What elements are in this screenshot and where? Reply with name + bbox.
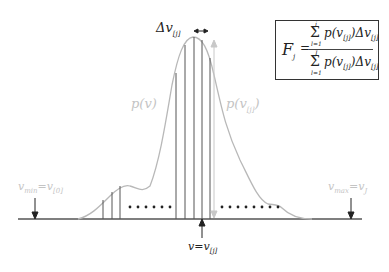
- delta-v-arrow-icon: [194, 29, 208, 33]
- formula-lhs-subscript: j: [293, 53, 295, 61]
- curve-label-pvj: p(v[j]): [226, 96, 259, 114]
- num-text: p(v: [324, 26, 343, 40]
- den-sum-lower: l=1: [311, 69, 322, 76]
- num-tail-subscript: [j]: [371, 34, 379, 42]
- v-min-label: vmin=v[0]: [18, 180, 63, 195]
- numerator: p(v[j])Δv[j]: [324, 26, 379, 42]
- fraction-bar: [309, 49, 373, 50]
- v-max-eq-subscript: J: [364, 187, 367, 195]
- v-min-subscript: min: [24, 187, 37, 195]
- v-max-arrow-icon: [348, 198, 354, 219]
- num-subscript: [j]: [343, 34, 351, 42]
- den-tail: )Δv: [351, 55, 371, 69]
- delta-v-label: Δv[j]: [156, 20, 180, 38]
- formula-lhs: Fj: [282, 40, 295, 61]
- formula-equals: =: [300, 41, 310, 55]
- num-sigma: Σ: [310, 24, 320, 40]
- den-sigma: Σ: [310, 53, 320, 69]
- v-j-arrow-icon: [199, 219, 205, 238]
- den-subscript: [j]: [343, 63, 351, 71]
- v-j-label: v=v[j]: [188, 240, 217, 255]
- v-max-label: vmax=vJ: [328, 180, 367, 195]
- delta-v-subscript: [j]: [173, 30, 181, 38]
- curve-label-pv: p(v): [131, 96, 157, 111]
- v-min-arrow-icon: [32, 198, 38, 219]
- num-sum-lower: l=1: [311, 40, 322, 47]
- v-j-text: v=v: [188, 240, 210, 253]
- v-max-subscript: max: [334, 187, 349, 195]
- delta-v-text: Δv: [156, 20, 173, 35]
- v-min-eq-text: =v: [38, 180, 53, 193]
- ellipsis-dots-left: [129, 206, 172, 209]
- ellipsis-dots-right: [221, 206, 280, 209]
- formula-lhs-text: F: [282, 40, 293, 59]
- v-max-eq-text: =v: [349, 180, 364, 193]
- v-min-eq-subscript: [0]: [53, 187, 63, 195]
- den-tail-subscript: [j]: [371, 63, 379, 71]
- v-j-subscript: [j]: [210, 247, 218, 255]
- den-text: p(v: [324, 55, 343, 69]
- denominator: p(v[j])Δv[j]: [324, 55, 379, 71]
- num-tail: )Δv: [351, 26, 371, 40]
- formula-box: Fj = j Σ l=1 p(v[j])Δv[j] J Σ l=1 p(v[j]…: [275, 20, 379, 80]
